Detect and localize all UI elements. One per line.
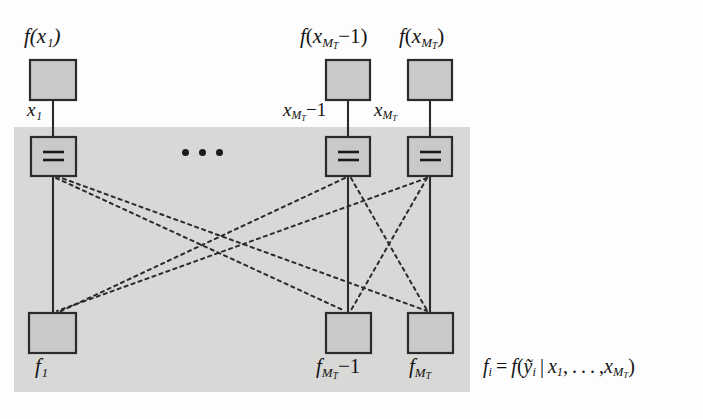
- node-equality-MT1: [326, 137, 370, 176]
- node-prior-f-xMT: [408, 60, 452, 100]
- edges-cross-dashed: [56, 176, 428, 313]
- variable-label-xMT1: xMT−1: [283, 100, 326, 123]
- node-equality-MT: [408, 137, 452, 176]
- variable-label-xMT: xMT: [374, 100, 397, 123]
- factor-definition-equation: fi = f(ỹi | x1, . . . ,xMT): [483, 356, 635, 381]
- node-factor-f1: [29, 313, 76, 353]
- factor-graph-figure: f(x₁) f(xMT−1) f(xMT) x₁ xMT−1 xMT f₁ fM…: [0, 0, 703, 419]
- node-factor-fMT1: [326, 313, 371, 353]
- factor-label-fMT1: fMT−1: [316, 356, 360, 381]
- ellipsis-dot-3: [216, 149, 223, 156]
- node-factor-fMT: [408, 313, 453, 353]
- edges-equality-to-factor-solid: [53, 176, 430, 313]
- edge-eqMT1-f1-dashed: [57, 178, 345, 313]
- top-label-f-x1: f(x₁): [24, 26, 60, 47]
- top-label-f-xMT: f(xMT): [399, 26, 444, 51]
- factor-label-fMT: fMT: [409, 356, 431, 381]
- ellipsis-dot-1: [182, 149, 189, 156]
- factor-label-f1-text: f₁: [35, 354, 48, 378]
- ellipsis-dots: [182, 149, 223, 156]
- ellipsis-dot-2: [199, 149, 206, 156]
- factor-label-f1: f₁: [35, 356, 48, 377]
- top-label-f-x1-text: f(x₁): [24, 24, 60, 48]
- equality-glyphs: [43, 152, 441, 160]
- variable-label-x1: x₁: [27, 100, 42, 119]
- node-equality-1: [31, 137, 76, 176]
- variable-label-x1-text: x₁: [27, 99, 42, 120]
- node-prior-f-x1: [30, 60, 76, 100]
- node-prior-f-xMT1: [326, 60, 370, 100]
- top-label-f-xMT1: f(xMT−1): [300, 26, 368, 51]
